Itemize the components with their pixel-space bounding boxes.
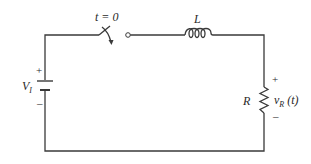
wire-left-top	[45, 35, 99, 80]
inductor-label: L	[194, 13, 201, 25]
switch	[99, 26, 130, 45]
switch-label: t = 0	[95, 11, 118, 23]
resistor-voltage-label: vR (t)	[274, 94, 299, 109]
resistor-plus-sign: +	[272, 74, 278, 85]
wire-inductor-to-resistor	[213, 35, 264, 87]
source-label: VI	[22, 80, 32, 95]
resistor-label: R	[243, 95, 250, 107]
wire-left-bottom	[45, 93, 264, 151]
inductor-coil	[185, 29, 213, 38]
source-minus-sign: –	[37, 98, 43, 109]
source-plus-sign: +	[36, 65, 42, 76]
resistor-minus-sign: –	[273, 111, 279, 122]
resistor-zigzag	[260, 87, 268, 113]
circuit-diagram	[0, 0, 311, 164]
